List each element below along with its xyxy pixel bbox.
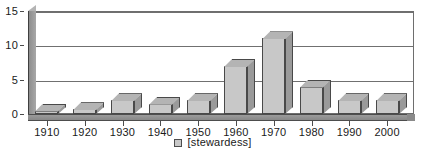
bar — [187, 93, 218, 114]
x-axis-tick-label: 1950 — [179, 126, 217, 138]
bar — [111, 93, 142, 114]
bar-chart: 051015 [stewardess] 19101920193019401950… — [0, 0, 426, 151]
x-axis-tick-label: 1970 — [255, 126, 293, 138]
bar-side-face — [285, 31, 293, 114]
x-axis-tick-label: 1920 — [66, 126, 104, 138]
bar — [300, 80, 331, 114]
bar — [224, 59, 255, 114]
bar-front-face — [338, 100, 361, 114]
bar — [73, 102, 104, 114]
bar-front-face — [262, 38, 285, 114]
bar — [149, 97, 180, 114]
bar-front-face — [111, 100, 134, 114]
bar-front-face — [376, 100, 399, 114]
legend-label-stewardess: [stewardess] — [187, 137, 251, 148]
bar — [35, 104, 66, 114]
bar — [338, 93, 369, 114]
bar — [376, 93, 407, 114]
chart-legend: [stewardess] — [0, 137, 426, 148]
x-axis-tick-label: 2000 — [368, 126, 406, 138]
bar-front-face — [300, 87, 323, 114]
bar-front-face — [187, 100, 210, 114]
legend-swatch-stewardess — [174, 139, 182, 147]
bar-side-face — [247, 59, 255, 114]
x-axis-tick-label: 1990 — [330, 126, 368, 138]
bar — [262, 31, 293, 114]
x-axis-tick-label: 1980 — [293, 126, 331, 138]
x-axis-tick-label: 1930 — [104, 126, 142, 138]
bar-front-face — [149, 104, 172, 114]
x-axis-tick-label: 1960 — [217, 126, 255, 138]
x-axis-tick-label: 1940 — [141, 126, 179, 138]
bar-front-face — [224, 66, 247, 114]
x-axis-tick-label: 1910 — [28, 126, 66, 138]
